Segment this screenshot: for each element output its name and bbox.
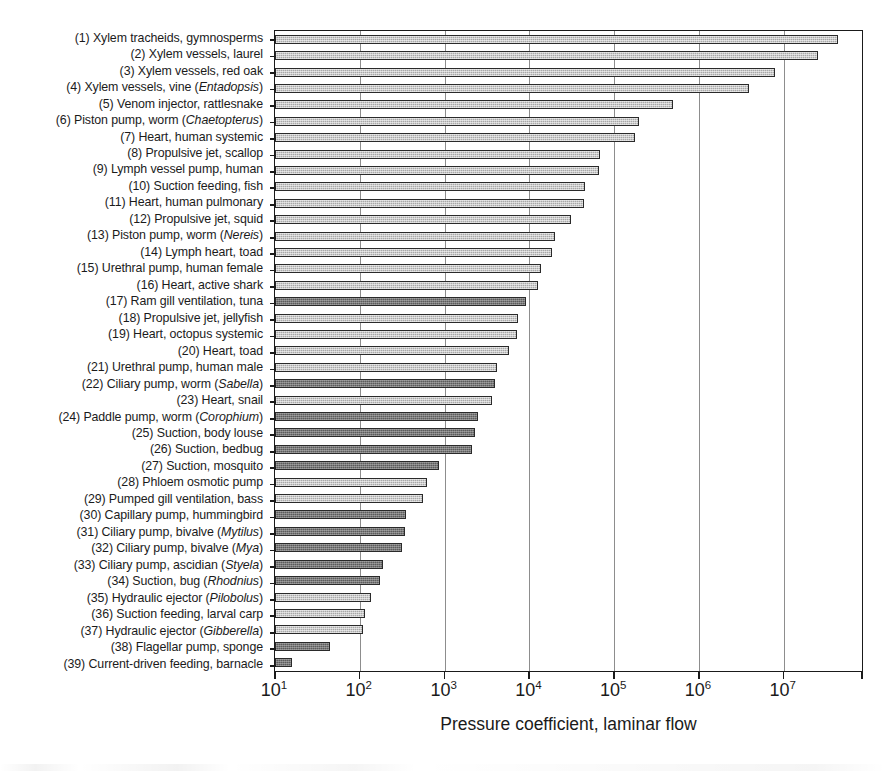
category-index: (16): [137, 279, 162, 292]
category-label: (23) Heart, snail: [177, 394, 263, 407]
bar-row: [275, 31, 862, 47]
category-label-row: (22) Ciliary pump, worm (Sabella): [0, 376, 268, 392]
category-label-row: (17) Ram gill ventilation, tuna: [0, 294, 268, 310]
category-name: Capillary pump, hummingbird: [105, 508, 263, 522]
category-index: (9): [93, 163, 111, 176]
category-label: (6) Piston pump, worm (Chaetopterus): [56, 114, 263, 127]
bar: [275, 576, 380, 585]
category-index: (6): [56, 114, 74, 127]
category-label-row: (10) Suction feeding, fish: [0, 178, 268, 194]
category-label: (10) Suction feeding, fish: [129, 180, 263, 193]
category-name: Xylem vessels, red oak: [138, 64, 263, 78]
y-axis-tick: [270, 105, 276, 107]
category-label: (34) Suction, bug (Rhodnius): [107, 575, 263, 588]
bar: [275, 593, 371, 602]
bar: [275, 625, 363, 634]
category-label: (20) Heart, toad: [178, 345, 263, 358]
category-label: (12) Propulsive jet, squid: [129, 213, 263, 226]
category-label-row: (5) Venom injector, rattlesnake: [0, 96, 268, 112]
bar-row: [275, 228, 862, 244]
category-name: Suction, mosquito: [166, 459, 263, 473]
category-label: (11) Heart, human pulmonary: [105, 196, 263, 209]
x-axis-tick: [783, 672, 785, 679]
y-axis-tick: [270, 204, 276, 206]
category-label: (19) Heart, octopus systemic: [108, 328, 263, 341]
category-label-row: (25) Suction, body louse: [0, 425, 268, 441]
bar-row: [275, 523, 862, 539]
y-axis-tick: [270, 615, 276, 617]
bar: [275, 412, 478, 421]
y-axis-tick: [270, 467, 276, 469]
category-label: (3) Xylem vessels, red oak: [120, 65, 263, 78]
bar-row: [275, 146, 862, 162]
category-index: (7): [120, 131, 138, 144]
category-name: Current-driven feeding, barnacle: [89, 657, 264, 671]
y-axis-tick: [270, 665, 276, 667]
category-label-row: (8) Propulsive jet, scallop: [0, 145, 268, 161]
category-label: (16) Heart, active shark: [137, 279, 263, 292]
category-label: (18) Propulsive jet, jellyfish: [119, 312, 263, 325]
category-name: Flagellar pump, sponge: [136, 640, 263, 654]
y-axis-tick: [270, 319, 276, 321]
category-label-row: (16) Heart, active shark: [0, 277, 268, 293]
bar: [275, 100, 673, 109]
category-index: (10): [129, 180, 154, 193]
category-label: (2) Xylem vessels, laurel: [131, 48, 263, 61]
bar-row: [275, 343, 862, 359]
x-axis-tick: [444, 672, 446, 679]
bar: [275, 560, 383, 569]
bar: [275, 543, 402, 552]
category-name: Xylem tracheids, gymnosperms: [93, 31, 263, 45]
category-index: (35): [87, 592, 112, 605]
bar-row: [275, 474, 862, 490]
category-label-row: (29) Pumped gill ventilation, bass: [0, 491, 268, 507]
bar: [275, 510, 406, 519]
bar: [275, 166, 599, 175]
bar-row: [275, 408, 862, 424]
category-index: (2): [131, 48, 149, 61]
bar: [275, 281, 538, 290]
y-axis-tick: [270, 550, 276, 552]
bar: [275, 150, 600, 159]
category-label: (14) Lymph heart, toad: [140, 246, 263, 259]
bar: [275, 35, 838, 44]
y-axis-tick: [270, 369, 276, 371]
category-name: Piston pump, worm: [74, 113, 178, 127]
bar-row: [275, 556, 862, 572]
bar-series: [275, 31, 862, 671]
category-label-row: (15) Urethral pump, human female: [0, 261, 268, 277]
bar: [275, 68, 775, 77]
x-axis-end-tick: [861, 672, 863, 679]
bar: [275, 363, 497, 372]
category-label: (5) Venom injector, rattlesnake: [99, 98, 263, 111]
y-axis-tick: [270, 484, 276, 486]
category-name: Suction, bug: [132, 574, 200, 588]
category-index: (23): [177, 394, 202, 407]
category-index: (20): [178, 345, 203, 358]
category-label: (32) Ciliary pump, bivalve (Mya): [91, 542, 263, 555]
y-axis-tick: [270, 303, 276, 305]
y-axis-tick: [270, 155, 276, 157]
category-index: (39): [64, 658, 89, 671]
category-label: (8) Propulsive jet, scallop: [127, 147, 263, 160]
category-index: (12): [129, 213, 154, 226]
category-index: (8): [127, 147, 145, 160]
bar: [275, 527, 405, 536]
bar-row: [275, 162, 862, 178]
category-label-row: (32) Ciliary pump, bivalve (Mya): [0, 541, 268, 557]
category-label-row: (21) Urethral pump, human male: [0, 359, 268, 375]
category-label-column: (1) Xylem tracheids, gymnosperms(2) Xyle…: [0, 30, 268, 672]
category-name: Suction, bedbug: [175, 442, 263, 456]
category-index: (4): [66, 81, 84, 94]
x-axis-tick: [698, 672, 700, 679]
bar: [275, 658, 292, 667]
category-name: Heart, snail: [202, 393, 263, 407]
y-axis-tick: [270, 286, 276, 288]
y-axis-tick: [270, 500, 276, 502]
bar: [275, 609, 365, 618]
category-name: Ram gill ventilation, tuna: [131, 294, 263, 308]
category-name: Ciliary pump, worm: [107, 377, 211, 391]
x-axis-tick-labels: 101102103104105106107: [274, 679, 863, 707]
category-label: (21) Urethral pump, human male: [87, 361, 263, 374]
category-name: Propulsive jet, jellyfish: [144, 311, 263, 325]
